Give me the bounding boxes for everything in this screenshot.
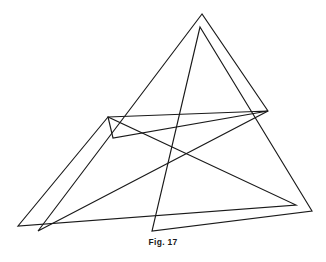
figure-background bbox=[0, 0, 326, 262]
figure-caption: Fig. 17 bbox=[0, 236, 326, 248]
geometric-figure-svg bbox=[0, 0, 326, 262]
figure-17-container: Fig. 17 bbox=[0, 0, 326, 262]
